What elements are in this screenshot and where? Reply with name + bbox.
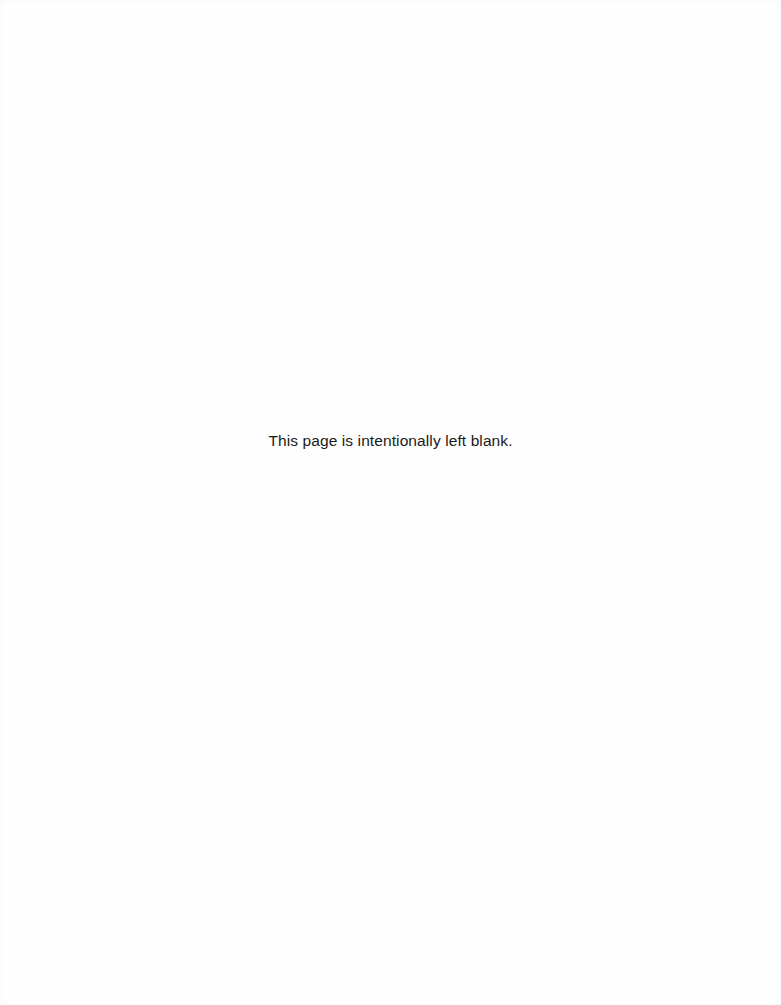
blank-page: This page is intentionally left blank. bbox=[0, 0, 781, 1005]
blank-page-notice: This page is intentionally left blank. bbox=[0, 430, 781, 452]
